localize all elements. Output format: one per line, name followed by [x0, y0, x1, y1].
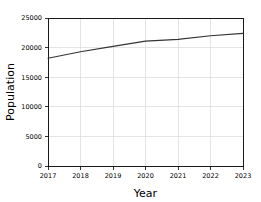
x-axis-title: Year	[133, 187, 158, 200]
chart-figure: 0 5000 10000 15000 20000 25000 2017 2018…	[0, 0, 261, 202]
y-tick-label-5000: 5000	[25, 133, 42, 141]
y-axis-title: Population	[4, 63, 17, 121]
y-tick-label-0: 0	[38, 162, 42, 170]
population-line-chart: 0 5000 10000 15000 20000 25000 2017 2018…	[0, 0, 261, 202]
x-tick-label-2022: 2022	[202, 172, 219, 180]
x-tick-label-2021: 2021	[170, 172, 187, 180]
x-tick-label-2019: 2019	[105, 172, 122, 180]
y-tick-label-20000: 20000	[21, 44, 42, 52]
x-tick-label-2018: 2018	[72, 172, 89, 180]
x-tick-label-2023: 2023	[235, 172, 252, 180]
y-tick-label-15000: 15000	[21, 74, 42, 82]
x-tick-label-2017: 2017	[40, 172, 57, 180]
y-tick-label-10000: 10000	[21, 103, 42, 111]
y-tick-label-25000: 25000	[21, 14, 42, 22]
x-tick-label-2020: 2020	[137, 172, 154, 180]
